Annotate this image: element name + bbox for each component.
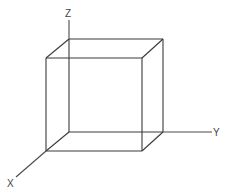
depth-edge-bottom-left [46,132,69,151]
depth-edge-top-left [46,39,69,58]
coordinate-cube-diagram: Z Y X [0,0,226,195]
y-axis-label: Y [213,127,220,138]
cube-depth-edges [46,39,163,151]
x-axis [16,151,46,177]
depth-edge-bottom-right [142,132,163,151]
x-axis-label: X [7,178,14,189]
axes [16,20,212,177]
z-axis-label: Z [65,8,71,19]
cube-back-face [69,39,163,132]
cube-front-face [46,58,142,151]
depth-edge-top-right [142,39,163,58]
